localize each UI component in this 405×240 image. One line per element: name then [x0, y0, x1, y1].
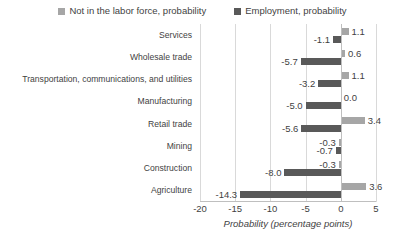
bar-employment	[301, 58, 341, 65]
gridline-5	[376, 24, 377, 202]
bar-value-label: -5.6	[282, 125, 298, 132]
bar-value-label: 1.1	[352, 28, 365, 35]
legend-item-employment: Employment, probability	[234, 6, 346, 16]
legend-swatch-employment	[234, 8, 241, 15]
plot-area: 1.1-1.10.6-5.71.1-3.20.0-5.03.4-5.6-0.3-…	[200, 24, 376, 202]
x-axis-line	[200, 201, 376, 202]
bar-rows: 1.1-1.10.6-5.71.1-3.20.0-5.03.4-5.6-0.3-…	[200, 24, 376, 202]
bar-employment	[284, 169, 340, 176]
y-axis-label-wholesale-trade: Wholesale trade	[130, 53, 192, 62]
bar-value-label: 0.0	[344, 94, 357, 101]
x-axis-tick-labels: -20-15-10-505	[200, 204, 376, 216]
bar-value-label: 3.6	[369, 183, 382, 190]
x-tick-label: -10	[264, 204, 278, 214]
y-axis-label-mining: Mining	[167, 142, 192, 151]
bar-value-label: -0.3	[319, 161, 335, 168]
x-tick-label: 0	[338, 204, 343, 214]
bar-not-in-labor-force	[341, 28, 349, 35]
y-axis-label-services: Services	[159, 31, 192, 40]
bar-not-in-labor-force	[341, 72, 349, 79]
bar-not-in-labor-force	[341, 183, 366, 190]
bar-value-label: 0.6	[348, 50, 361, 57]
bar-not-in-labor-force	[341, 117, 365, 124]
chart-legend: Not in the labor force, probability Empl…	[0, 2, 405, 20]
bar-value-label: 1.1	[352, 72, 365, 79]
legend-label-not-in-labor-force: Not in the labor force, probability	[69, 6, 206, 16]
bar-value-label: -3.2	[299, 80, 315, 87]
bar-value-label: -5.0	[286, 102, 302, 109]
bar-employment	[240, 191, 341, 198]
x-axis-title: Probability (percentage points)	[200, 218, 376, 229]
bar-value-label: -14.3	[215, 191, 237, 198]
bar-employment	[333, 36, 341, 43]
x-tick-label: 5	[373, 204, 378, 214]
bar-chart: Not in the labor force, probability Empl…	[0, 0, 405, 240]
bar-employment	[306, 102, 341, 109]
bar-value-label: -1.1	[314, 36, 330, 43]
y-axis-category-labels: ServicesWholesale tradeTransportation, c…	[0, 24, 196, 202]
y-axis-label-retail-trade: Retail trade	[148, 120, 192, 129]
zero-axis-line	[341, 24, 342, 202]
y-axis-label-manufacturing: Manufacturing	[138, 97, 192, 106]
x-tick-label: -15	[228, 204, 242, 214]
x-tick-label: -5	[301, 204, 309, 214]
x-tick-label: -20	[193, 204, 207, 214]
legend-item-not-in-labor-force: Not in the labor force, probability	[58, 6, 206, 16]
bar-value-label: 3.4	[368, 117, 381, 124]
legend-swatch-not-in-labor-force	[58, 8, 65, 15]
y-axis-label-transportation-communications-and-utilities: Transportation, communications, and util…	[22, 75, 192, 84]
bar-employment	[318, 80, 341, 87]
bar-value-label: -5.7	[281, 58, 297, 65]
y-axis-label-construction: Construction	[144, 164, 192, 173]
bar-value-label: -0.7	[317, 147, 333, 154]
bar-employment	[301, 125, 340, 132]
y-axis-label-agriculture: Agriculture	[151, 186, 192, 195]
legend-label-employment: Employment, probability	[245, 6, 346, 16]
bar-value-label: -8.0	[265, 169, 281, 176]
